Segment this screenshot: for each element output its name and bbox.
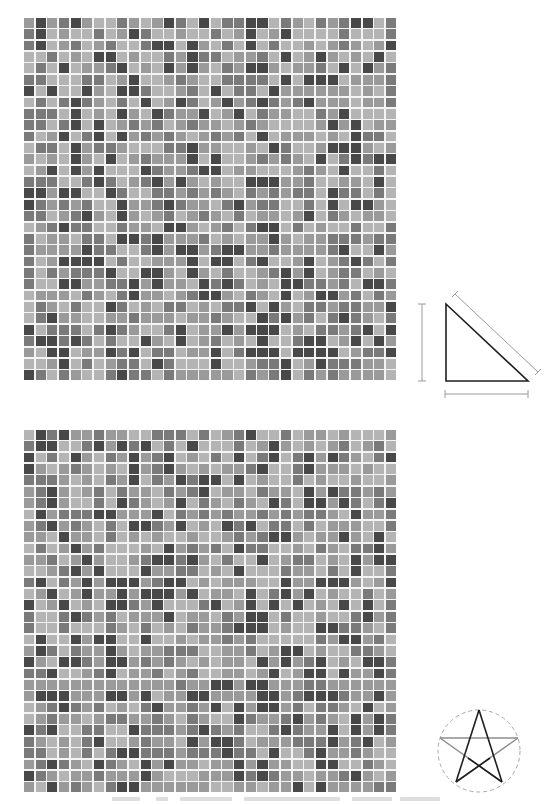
mosaic-cell	[351, 760, 361, 770]
mosaic-cell	[141, 268, 151, 278]
mosaic-cell	[47, 771, 57, 781]
mosaic-cell	[24, 532, 34, 542]
mosaic-cell	[339, 29, 349, 39]
mosaic-cell	[24, 234, 34, 244]
mosaic-cell	[281, 623, 291, 633]
mosaic-cell	[94, 566, 104, 576]
mosaic-cell	[47, 41, 57, 51]
mosaic-cell	[211, 302, 221, 312]
mosaic-cell	[257, 669, 267, 679]
mosaic-cell	[269, 771, 279, 781]
mosaic-cell	[386, 498, 396, 508]
mosaic-cell	[71, 109, 81, 119]
mosaic-cell	[269, 487, 279, 497]
mosaic-cell	[281, 200, 291, 210]
mosaic-cell	[269, 703, 279, 713]
mosaic-cell	[328, 782, 338, 792]
mosaic-cell	[246, 63, 256, 73]
mosaic-cell	[199, 143, 209, 153]
mosaic-cell	[94, 188, 104, 198]
mosaic-cell	[152, 370, 162, 380]
mosaic-cell	[293, 325, 303, 335]
mosaic-cell	[152, 268, 162, 278]
mosaic-cell	[176, 325, 186, 335]
mosaic-cell	[293, 302, 303, 312]
mosaic-cell	[164, 612, 174, 622]
mosaic-cell	[106, 487, 116, 497]
mosaic-cell	[36, 63, 46, 73]
mosaic-cell	[363, 464, 373, 474]
mosaic-cell	[164, 154, 174, 164]
mosaic-cell	[106, 245, 116, 255]
mosaic-cell	[269, 313, 279, 323]
mosaic-cell	[141, 291, 151, 301]
mosaic-cell	[386, 234, 396, 244]
mosaic-cell	[71, 544, 81, 554]
mosaic-cell	[94, 600, 104, 610]
mosaic-cell	[304, 75, 314, 85]
mosaic-cell	[47, 268, 57, 278]
mosaic-cell	[257, 782, 267, 792]
mosaic-cell	[304, 566, 314, 576]
mosaic-cell	[374, 441, 384, 451]
mosaic-cell	[176, 268, 186, 278]
mosaic-cell	[351, 691, 361, 701]
mosaic-cell	[339, 143, 349, 153]
mosaic-cell	[351, 521, 361, 531]
mosaic-cell	[24, 132, 34, 142]
mosaic-cell	[374, 691, 384, 701]
mosaic-cell	[71, 532, 81, 542]
mosaic-cell	[129, 760, 139, 770]
mosaic-cell	[164, 166, 174, 176]
mosaic-cell	[281, 680, 291, 690]
mosaic-cell	[351, 544, 361, 554]
mosaic-cell	[269, 544, 279, 554]
mosaic-cell	[234, 760, 244, 770]
mosaic-cell	[351, 223, 361, 233]
mosaic-cell	[374, 703, 384, 713]
mosaic-cell	[187, 188, 197, 198]
mosaic-cell	[141, 646, 151, 656]
mosaic-cell	[59, 188, 69, 198]
mosaic-cell	[106, 521, 116, 531]
mosaic-cell	[71, 359, 81, 369]
mosaic-cell	[374, 589, 384, 599]
mosaic-cell	[24, 223, 34, 233]
mosaic-cell	[222, 487, 232, 497]
mosaic-cell	[246, 782, 256, 792]
mosaic-cell	[363, 120, 373, 130]
mosaic-cell	[293, 714, 303, 724]
mosaic-cell	[164, 555, 174, 565]
mosaic-cell	[152, 75, 162, 85]
mosaic-cell	[351, 725, 361, 735]
mosaic-cell	[269, 268, 279, 278]
mosaic-cell	[293, 464, 303, 474]
mosaic-cell	[47, 544, 57, 554]
mosaic-cell	[187, 109, 197, 119]
mosaic-cell	[199, 188, 209, 198]
mosaic-cell	[351, 29, 361, 39]
mosaic-cell	[36, 487, 46, 497]
mosaic-cell	[269, 234, 279, 244]
mosaic-cell	[71, 279, 81, 289]
mosaic-cell	[351, 109, 361, 119]
mosaic-cell	[59, 748, 69, 758]
mosaic-cell	[222, 120, 232, 130]
mosaic-cell	[94, 691, 104, 701]
mosaic-cell	[374, 245, 384, 255]
mosaic-cell	[293, 109, 303, 119]
mosaic-cell	[187, 521, 197, 531]
mosaic-cell	[59, 63, 69, 73]
mosaic-cell	[281, 737, 291, 747]
mosaic-cell	[246, 257, 256, 267]
mosaic-cell	[363, 612, 373, 622]
mosaic-cell	[152, 109, 162, 119]
mosaic-cell	[82, 544, 92, 554]
mosaic-cell	[24, 120, 34, 130]
mosaic-cell	[316, 75, 326, 85]
mosaic-cell	[386, 268, 396, 278]
mosaic-cell	[374, 566, 384, 576]
mosaic-cell	[71, 63, 81, 73]
mosaic-cell	[211, 234, 221, 244]
mosaic-cell	[246, 646, 256, 656]
